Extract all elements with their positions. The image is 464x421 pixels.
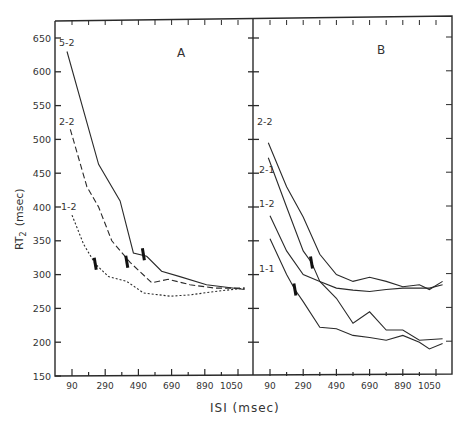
svg-text:550: 550 xyxy=(33,100,51,111)
error-marker xyxy=(294,283,296,295)
tick-labels: 9029049069089010509029049069089010501502… xyxy=(33,33,441,392)
error-marker xyxy=(311,256,313,268)
svg-text:600: 600 xyxy=(33,66,51,77)
svg-text:90: 90 xyxy=(66,381,78,391)
y-axis-title-sub: 2 xyxy=(19,231,28,236)
svg-text:300: 300 xyxy=(33,269,51,280)
y-axis-title-main: RT xyxy=(13,236,26,250)
svg-text:890: 890 xyxy=(196,381,213,391)
series-labels: 5-22-21-22-22-11-21-1 xyxy=(59,37,275,274)
x-axis-title: ISI (msec) xyxy=(210,401,280,415)
series-label: 1-2 xyxy=(259,198,275,209)
y-axis-title-unit: (msec) xyxy=(13,188,26,226)
svg-text:350: 350 xyxy=(33,235,51,246)
svg-text:490: 490 xyxy=(328,381,345,391)
series-line-5-2 xyxy=(67,52,245,290)
svg-text:250: 250 xyxy=(33,303,51,314)
error-marker xyxy=(94,258,96,270)
svg-text:290: 290 xyxy=(97,381,114,391)
svg-text:690: 690 xyxy=(163,381,180,391)
error-marker xyxy=(142,248,144,260)
svg-text:150: 150 xyxy=(33,371,51,382)
series-label: 5-2 xyxy=(59,37,75,48)
error-marker xyxy=(126,256,128,268)
svg-text:RT2(msec): RT2(msec) xyxy=(13,188,28,250)
svg-text:650: 650 xyxy=(33,33,51,44)
data-series xyxy=(67,52,443,350)
svg-text:1050: 1050 xyxy=(418,381,441,391)
series-line-2-2 xyxy=(268,143,442,290)
svg-text:200: 200 xyxy=(33,337,51,348)
svg-text:290: 290 xyxy=(295,381,312,391)
series-label: 2-2 xyxy=(59,116,75,127)
series-label: 1-1 xyxy=(259,263,275,274)
svg-text:690: 690 xyxy=(361,381,378,391)
y-axis-title: RT2(msec) xyxy=(13,188,28,250)
svg-text:90: 90 xyxy=(264,381,276,391)
svg-text:890: 890 xyxy=(394,381,411,391)
series-label: 2-1 xyxy=(259,164,275,175)
series-line-2-1 xyxy=(268,158,442,341)
series-line-1-2 xyxy=(72,215,245,296)
svg-text:1050: 1050 xyxy=(220,381,243,391)
svg-text:400: 400 xyxy=(33,202,51,213)
panel-b-label: B xyxy=(377,43,385,57)
svg-text:500: 500 xyxy=(33,134,51,145)
axes-frame xyxy=(55,16,452,376)
data-markers xyxy=(94,248,312,295)
series-label: 1-2 xyxy=(61,201,77,212)
series-label: 2-2 xyxy=(257,116,273,127)
figure: 9029049069089010509029049069089010501502… xyxy=(0,0,464,421)
svg-text:450: 450 xyxy=(33,168,51,179)
panel-a-label: A xyxy=(177,46,186,60)
svg-text:490: 490 xyxy=(130,381,147,391)
